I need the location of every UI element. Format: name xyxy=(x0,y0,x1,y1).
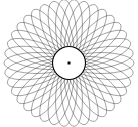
center-dot xyxy=(68,62,71,65)
spirograph-svg xyxy=(0,0,138,127)
center-hub-group xyxy=(53,47,86,80)
spirograph-figure xyxy=(0,0,138,127)
